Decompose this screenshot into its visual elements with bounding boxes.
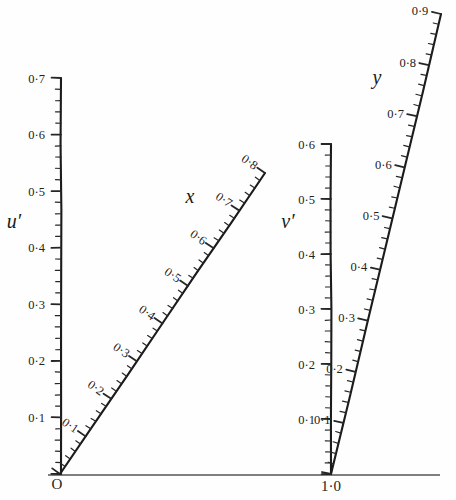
y-scale-major-tick	[407, 114, 416, 116]
y-scale-minor-tick	[433, 23, 438, 24]
x-scale-tick-label: 0·8	[239, 152, 261, 173]
y-scale: 0·10·20·30·40·50·60·70·80·9y	[314, 4, 441, 474]
x-scale-major-tick	[154, 318, 162, 324]
y-scale-minor-tick	[426, 54, 431, 55]
x-scale-minor-tick	[137, 351, 142, 354]
y-scale-minor-tick	[333, 442, 338, 444]
y-scale-line	[331, 14, 441, 474]
y-scale-major-tick	[371, 268, 380, 270]
x-scale-minor-tick	[245, 192, 249, 195]
y-scale-name-label: y	[371, 66, 382, 89]
y-scale-minor-tick	[404, 145, 409, 147]
y-scale-tick-label: 0·1	[314, 413, 331, 427]
x-scale-minor-tick	[163, 313, 168, 316]
x-scale-minor-tick	[225, 223, 229, 226]
y-scale-major-tick	[346, 370, 355, 372]
y-scale-tick-label: 0·7	[387, 107, 404, 121]
x-scale-minor-tick	[71, 448, 75, 451]
y-scale-major-tick	[358, 318, 367, 320]
origin-markers-group: O1·0	[52, 476, 341, 494]
y-scale-minor-tick	[389, 207, 394, 208]
y-scale-tick-label: 0·8	[399, 56, 416, 70]
y-scale-minor-tick	[394, 186, 399, 188]
y-scale-minor-tick	[357, 340, 362, 342]
x-scale-name-label: x	[185, 185, 195, 207]
y-scale-minor-tick	[340, 411, 346, 412]
y-scale-minor-tick	[370, 289, 375, 290]
u-prime-scale-tick-label: 0·4	[28, 241, 45, 255]
x-scale-minor-tick	[117, 381, 122, 384]
x-scale-major-tick	[231, 206, 239, 211]
u-prime-scale-tick-label: 0·7	[28, 72, 45, 86]
x-scale-minor-tick	[66, 456, 71, 459]
y-scale-tick-label: 0·2	[326, 362, 343, 376]
u-prime-scale: 0·70·60·50·40·30·20·1u′	[7, 72, 62, 475]
y-scale-minor-tick	[409, 125, 415, 126]
scales-group: 0·70·60·50·40·30·20·1u′0·10·20·30·40·50·…	[7, 4, 441, 474]
x-scale-minor-tick	[219, 230, 224, 233]
v-prime-scale-tick-label: 0·3	[298, 303, 315, 317]
u-prime-scale-tick-label: 0·5	[28, 185, 45, 199]
x-scale-minor-tick	[204, 253, 208, 256]
x-scale-tick-label: 0·1	[59, 415, 81, 436]
y-scale-minor-tick	[353, 360, 358, 361]
v-prime-scale-tick-label: 0·4	[298, 248, 315, 262]
y-scale-minor-tick	[385, 227, 390, 228]
x-scale-tick-label: 0·6	[188, 227, 210, 248]
nomogram-figure: 0·70·60·50·40·30·20·1u′0·10·20·30·40·50·…	[0, 0, 456, 500]
y-scale-minor-tick	[360, 330, 365, 331]
u-prime-scale-line	[61, 78, 62, 474]
y-scale-minor-tick	[419, 84, 424, 85]
x-scale-minor-tick	[250, 185, 254, 188]
y-scale-minor-tick	[414, 104, 419, 106]
x-scale-tick-label: 0·7	[213, 189, 235, 210]
y-scale-minor-tick	[402, 156, 407, 157]
x-scale-major-tick	[104, 394, 112, 399]
x-scale-major-tick	[206, 243, 214, 248]
y-scale-minor-tick	[428, 44, 433, 45]
x-scale-minor-tick	[199, 260, 203, 263]
x-scale-minor-tick	[189, 276, 193, 279]
x-scale-minor-tick	[122, 373, 126, 376]
y-scale-tick-label: 0·9	[412, 4, 429, 18]
nomogram-canvas: 0·70·60·50·40·30·20·1u′0·10·20·30·40·50·…	[0, 0, 456, 500]
y-scale-minor-tick	[364, 309, 370, 310]
x-scale-minor-tick	[76, 441, 81, 444]
x-scale-minor-tick	[230, 215, 235, 218]
x-scale-minor-tick	[86, 426, 91, 429]
y-scale-tick-label: 0·5	[363, 209, 380, 223]
y-scale-minor-tick	[355, 350, 360, 351]
y-scale-minor-tick	[382, 238, 388, 239]
x-scale: 0·10·20·30·40·50·60·70·8x	[52, 152, 265, 474]
x-scale-major-tick	[257, 168, 265, 173]
y-scale-tick-label: 0·4	[351, 260, 368, 274]
x-scale-minor-tick	[112, 388, 117, 391]
y-scale-major-tick	[395, 165, 404, 167]
x-scale-major-tick	[129, 356, 137, 361]
x-scale-minor-tick	[174, 298, 178, 301]
x-scale-major-tick	[180, 281, 188, 286]
y-scale-minor-tick	[416, 94, 422, 96]
x-scale-tick-label: 0·5	[162, 265, 184, 286]
x-scale-tick-label: 0·4	[136, 302, 158, 323]
y-scale-major-tick	[383, 216, 393, 218]
x-scale-minor-tick	[194, 268, 198, 271]
v-prime-scale-name-label: v′	[281, 210, 295, 232]
y-scale-major-tick	[432, 12, 441, 14]
y-scale-minor-tick	[336, 432, 341, 434]
x-scale-minor-tick	[127, 366, 131, 369]
x-scale-minor-tick	[143, 343, 147, 346]
y-scale-minor-tick	[367, 299, 372, 300]
x-scale-major-tick	[78, 431, 86, 436]
v-prime-scale-tick-label: 0·1	[298, 413, 315, 427]
x-scale-minor-tick	[148, 336, 153, 339]
x-scale-minor-tick	[96, 411, 101, 414]
x-scale-minor-tick	[168, 305, 173, 308]
origin-marker-1: 1·0	[321, 478, 341, 494]
origin-marker-0: O	[52, 476, 63, 492]
u-prime-scale-name-label: u′	[7, 210, 22, 232]
y-scale-minor-tick	[421, 74, 426, 75]
x-scale-minor-tick	[102, 403, 107, 406]
y-scale-minor-tick	[347, 381, 353, 382]
u-prime-scale-tick-label: 0·3	[28, 298, 45, 312]
